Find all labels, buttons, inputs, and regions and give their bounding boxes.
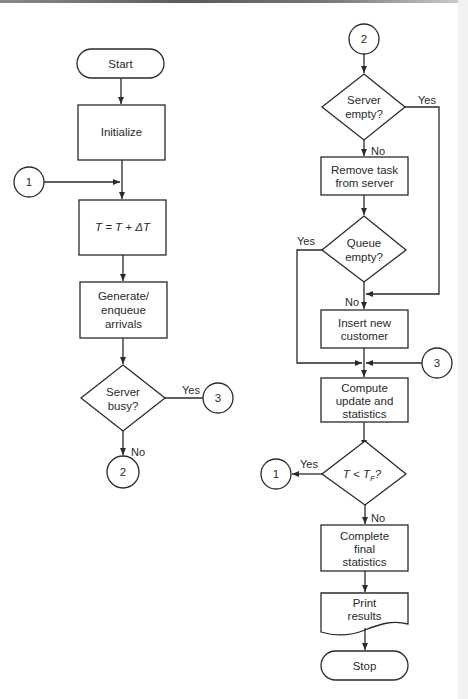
time-step-process: T = T + ΔT [79,200,166,255]
insert-customer-label-2: customer [341,330,388,342]
connector-3-right: 3 [422,348,452,378]
complete-label-2: final [354,543,375,555]
time-check-decision: T < TF? [322,441,406,505]
stop-terminator: Stop [321,651,408,680]
server-empty-yes-label: Yes [418,94,436,106]
start-label: Start [108,58,133,70]
queue-empty-label-2: empty? [345,251,383,263]
queue-empty-no-label: No [345,296,359,308]
server-empty-decision: Server empty? [322,74,405,140]
insert-customer-label-1: Insert new [338,317,392,329]
remove-task-label-2: from server [335,177,393,189]
compute-label-1: Compute [341,382,388,394]
server-empty-label-2: empty? [345,108,383,120]
time-check-no-label: No [371,512,385,524]
generate-label-1: Generate/ [98,290,150,302]
server-busy-label-1: Server [106,386,140,398]
insert-customer-process: Insert new customer [321,310,408,348]
generate-label-2: enqueue [101,304,146,316]
compute-statistics-process: Compute update and statistics [321,378,408,422]
connector-1-right: 1 [261,459,291,489]
compute-label-2: update and [336,395,394,407]
server-busy-decision: Server busy? [81,365,165,431]
remove-task-label-1: Remove task [331,164,398,176]
queue-empty-yes-label: Yes [297,235,315,247]
stop-label: Stop [353,660,377,672]
server-busy-label-2: busy? [108,400,139,412]
connector-3-left: 3 [203,383,233,413]
start-terminator: Start [77,49,164,78]
generate-arrivals-process: Generate/ enqueue arrivals [80,282,167,338]
initialize-process: Initialize [78,105,165,160]
server-busy-no-label: No [131,446,145,458]
initialize-label: Initialize [101,126,143,138]
complete-label-3: statistics [342,556,386,568]
connector-1-label: 1 [26,176,32,188]
remove-task-process: Remove task from server [321,157,408,195]
server-empty-no-label: No [371,145,385,157]
compute-label-3: statistics [342,408,386,420]
queue-empty-decision: Queue empty? [322,216,406,282]
connector-3-left-label: 3 [215,392,221,404]
connector-2-right-label: 2 [361,33,367,45]
server-empty-label-1: Server [347,94,381,106]
time-step-label: T = T + ΔT [95,221,151,233]
connector-2-left-label: 2 [120,466,126,478]
queue-empty-label-1: Queue [347,237,382,249]
complete-label-1: Complete [340,530,389,542]
connector-2-right: 2 [349,24,379,54]
connector-3-right-label: 3 [434,357,440,369]
print-label-2: results [348,610,382,622]
connector-2-left: 2 [107,456,139,488]
generate-label-3: arrivals [105,318,142,330]
server-busy-yes-label: Yes [182,384,200,396]
complete-statistics-process: Complete final statistics [321,525,408,571]
time-check-yes-label: Yes [300,458,318,470]
connector-1-left: 1 [14,167,44,197]
connector-1-right-label: 1 [273,468,279,480]
print-label-1: Print [353,597,377,609]
flowchart-canvas: Start Initialize 1 T = T + ΔT Generate/ … [0,0,468,699]
